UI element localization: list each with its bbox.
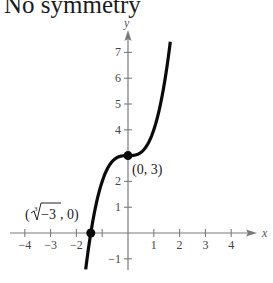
- y-tick-label: 2: [115, 174, 121, 188]
- x-tick-label: −3: [44, 238, 57, 252]
- y-tick-label: 6: [115, 71, 121, 85]
- svg-text:−3: −3: [41, 207, 56, 222]
- x-tick-label: 2: [177, 238, 183, 252]
- point-0-3: [124, 151, 133, 160]
- point-label-x-intercept: ( 3 −3 , 0): [25, 203, 79, 223]
- point-label-0-3: (0, 3): [132, 162, 163, 178]
- x-tick-label: −2: [70, 238, 83, 252]
- svg-text:, 0): , 0): [60, 207, 79, 223]
- axes: [10, 30, 257, 270]
- y-tick-label: 7: [115, 45, 121, 59]
- y-tick-label: 1: [115, 200, 121, 214]
- x-axis-label: x: [261, 226, 268, 240]
- svg-text:(: (: [25, 207, 30, 223]
- x-tick-label: −4: [18, 238, 31, 252]
- plot-area: −4−3−21234−1124567 (0, 3) ( 3 −3 , 0) x …: [0, 0, 273, 283]
- y-tick-label: 5: [115, 97, 121, 111]
- y-tick-label: −1: [108, 252, 121, 266]
- x-tick-label: 4: [228, 238, 234, 252]
- x-tick-label: 3: [202, 238, 208, 252]
- point-x-intercept: [86, 229, 95, 238]
- y-tick-label: 4: [115, 123, 121, 137]
- y-axis-label: y: [123, 16, 130, 30]
- x-tick-label: 1: [151, 238, 157, 252]
